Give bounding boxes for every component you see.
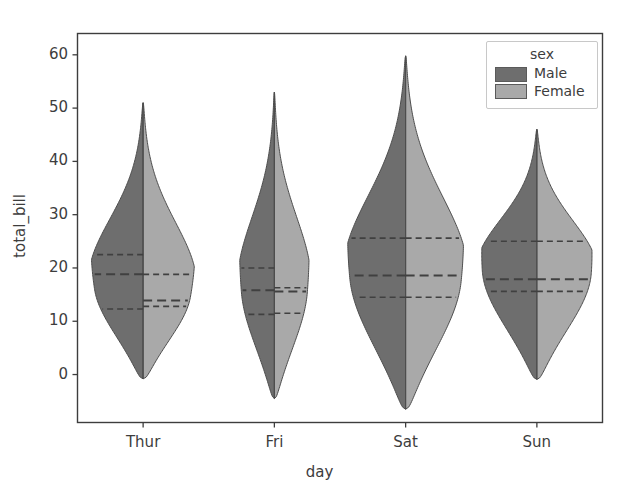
legend-label: Male (534, 66, 567, 81)
legend-entries: MaleFemale (495, 66, 589, 99)
x-tick-label: Fri (224, 433, 324, 451)
legend-title: sex (495, 47, 589, 62)
x-tick-label: Thur (93, 433, 193, 451)
y-tick-label: 10 (20, 311, 68, 329)
x-tick-label: Sat (356, 433, 456, 451)
y-tick-label: 60 (20, 45, 68, 63)
legend-entry-female: Female (495, 84, 589, 99)
legend-label: Female (534, 84, 585, 99)
y-tick-label: 50 (20, 98, 68, 116)
x-tick-marks (143, 423, 537, 428)
y-tick-label: 0 (20, 365, 68, 383)
legend: sex MaleFemale (486, 41, 598, 109)
x-axis-label: day (0, 463, 639, 481)
violin-plot-figure: 0102030405060 ThurFriSatSun total_bill d… (0, 0, 639, 492)
legend-swatch-male (495, 67, 527, 82)
legend-entry-male: Male (495, 66, 589, 81)
x-tick-label: Sun (487, 433, 587, 451)
legend-swatch-female (495, 84, 527, 99)
y-tick-marks (73, 55, 78, 375)
y-axis-label: total_bill (11, 166, 29, 286)
